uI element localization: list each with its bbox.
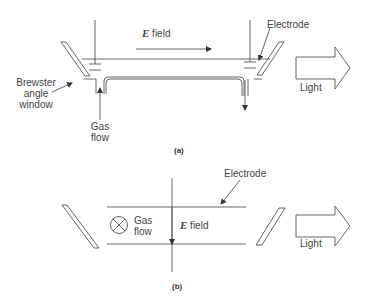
e-field-label-b: E field — [180, 220, 208, 231]
brewster-window-label: Brewster angle window — [14, 77, 58, 110]
electrode-label-a: Electrode — [267, 19, 309, 30]
left-brewster-window-b — [62, 205, 99, 248]
gas-channel — [104, 77, 244, 96]
electrode-label-b: Electrode — [224, 168, 266, 179]
laser-tube-diagram — [0, 0, 368, 300]
light-label-b: Light — [300, 238, 322, 249]
gas-flow-label-a: Gas flow — [88, 121, 112, 143]
caption-b: (b) — [172, 281, 182, 292]
right-brewster-window-b — [256, 208, 285, 245]
e-field-label-a: E field — [142, 28, 170, 39]
right-brewster-window-a — [257, 42, 284, 75]
gas-flow-label-b: Gas flow — [134, 215, 152, 237]
caption-a: (a) — [174, 145, 184, 156]
light-label-a: Light — [300, 82, 322, 93]
